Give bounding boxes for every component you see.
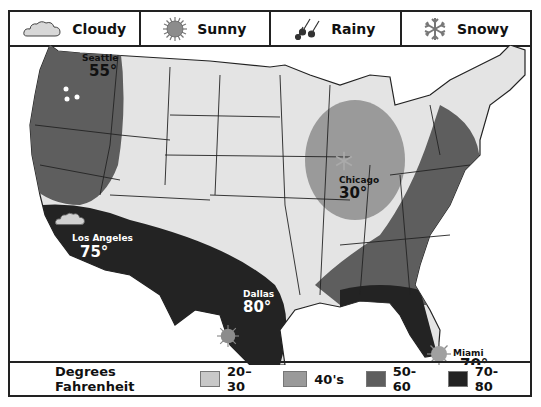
key-label: Snowy xyxy=(457,21,509,37)
snowflake-icon xyxy=(334,151,354,171)
us-temperature-map: Seattle 55° Los Angeles 75° Dallas 80° C… xyxy=(10,45,530,365)
key-label: Cloudy xyxy=(72,21,126,37)
legend-item-70-80: 70-80 xyxy=(448,364,508,394)
city-temp-dallas: 80° xyxy=(243,300,271,315)
rain-icon xyxy=(62,85,82,105)
legend-swatch xyxy=(283,371,307,387)
key-rainy: Rainy xyxy=(271,12,402,45)
map-graphic xyxy=(10,45,530,365)
key-label: Sunny xyxy=(197,21,246,37)
legend-label: 20–30 xyxy=(227,364,261,394)
snowflake-icon xyxy=(423,17,447,41)
legend-label: 50-60 xyxy=(393,364,426,394)
city-temp-los-angeles: 75° xyxy=(80,245,108,260)
key-cloudy: Cloudy xyxy=(10,12,141,45)
legend-swatch xyxy=(200,371,220,387)
legend-item-50-60: 50-60 xyxy=(366,364,426,394)
weather-map-frame: Cloudy Sunny Rainy xyxy=(8,10,532,397)
sun-icon xyxy=(163,17,187,41)
sun-icon xyxy=(217,325,239,347)
legend-label: 70-80 xyxy=(475,364,508,394)
legend-title: Degrees Fahrenheit xyxy=(55,364,174,394)
key-label: Rainy xyxy=(331,21,375,37)
city-temp-chicago: 30° xyxy=(339,186,367,201)
legend-swatch xyxy=(448,371,468,387)
legend-swatch xyxy=(366,371,386,387)
rain-icon xyxy=(295,17,321,41)
city-name-los-angeles: Los Angeles xyxy=(72,233,133,243)
cloud-icon xyxy=(22,19,62,39)
legend-item-20-30: 20–30 xyxy=(200,364,261,394)
city-temp-seattle: 55° xyxy=(89,64,117,79)
key-snowy: Snowy xyxy=(402,12,531,45)
legend-label: 40's xyxy=(314,372,344,387)
cloud-icon xyxy=(54,210,86,228)
legend-item-40s: 40's xyxy=(283,371,344,387)
key-sunny: Sunny xyxy=(141,12,272,45)
weather-key-header: Cloudy Sunny Rainy xyxy=(10,12,530,47)
temperature-legend: Degrees Fahrenheit 20–30 40's 50-60 70-8… xyxy=(10,361,530,395)
